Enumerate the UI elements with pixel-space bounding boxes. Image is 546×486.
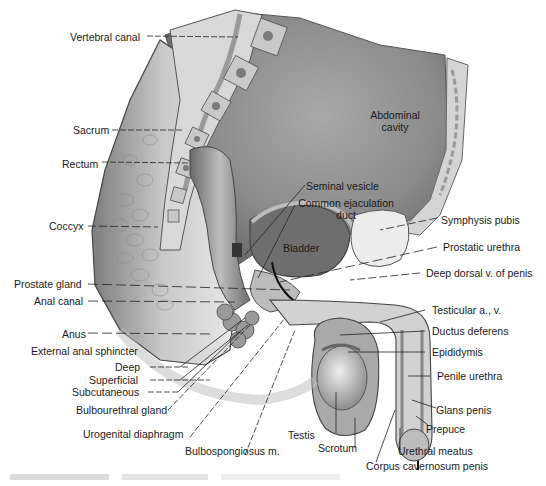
label-abdominal-cavity-line2: cavity [355, 121, 435, 133]
label-sphincter-deep: Deep [115, 361, 140, 373]
label-anal-canal: Anal canal [34, 295, 83, 307]
label-deep-dorsal-vein: Deep dorsal v. of penis [426, 267, 533, 279]
label-prostatic-urethra: Prostatic urethra [443, 241, 520, 253]
label-bulbourethral-gland: Bulbourethral gland [76, 404, 167, 416]
label-corpus-cavernosum: Corpus cavernosum penis [366, 460, 488, 472]
label-symphysis-pubis: Symphysis pubis [441, 214, 520, 226]
label-common-ejaculation-duct-line2: duct [296, 209, 396, 221]
scrotum [312, 318, 379, 436]
seminal-vesicle-section [232, 243, 242, 257]
label-common-ejaculation-duct-line1: Common ejaculation [296, 197, 396, 209]
label-prepuce: Prepuce [426, 423, 465, 435]
label-anus: Anus [62, 328, 86, 340]
label-bulbospongiosus: Bulbospongiosus m. [185, 445, 280, 457]
label-abdominal-cavity-line1: Abdominal [355, 109, 435, 121]
label-scrotum: Scrotum [318, 442, 357, 454]
label-epididymis: Epididymis [432, 346, 483, 358]
label-vertebral-canal: Vertebral canal [70, 31, 140, 43]
label-coccyx: Coccyx [49, 220, 83, 232]
label-penile-urethra: Penile urethra [437, 370, 502, 382]
testis-shape [317, 346, 367, 410]
label-rectum: Rectum [62, 158, 98, 170]
label-testis: Testis [288, 429, 315, 441]
label-external-anal-sphincter: External anal sphincter [31, 345, 138, 357]
label-prostate-gland: Prostate gland [14, 278, 82, 290]
label-urogenital-diaphragm: Urogenital diaphragm [83, 428, 183, 440]
label-ductus-deferens: Ductus deferens [432, 325, 508, 337]
label-bladder: Bladder [283, 242, 319, 254]
label-sphincter-superficial: Superficial [89, 374, 138, 386]
label-urethral-meatus: Urethral meatus [398, 445, 473, 457]
label-sphincter-subcutaneous: Subcutaneous [72, 386, 139, 398]
figure-caption-cutoff [10, 474, 340, 480]
label-glans-penis: Glans penis [436, 404, 491, 416]
label-seminal-vesicle: Seminal vesicle [306, 180, 379, 192]
label-sacrum: Sacrum [73, 124, 109, 136]
label-testicular-artery-vein: Testicular a., v. [432, 304, 501, 316]
